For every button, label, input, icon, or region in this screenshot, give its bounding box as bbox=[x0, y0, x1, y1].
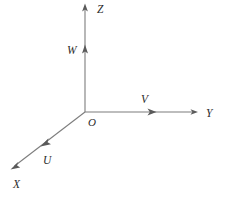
u-vector-label: U bbox=[43, 154, 52, 166]
coordinate-axes-diagram: Z W Y V X U O bbox=[0, 0, 225, 199]
origin-label: O bbox=[88, 116, 96, 128]
x-axis-label: X bbox=[12, 178, 21, 190]
w-vector-label: W bbox=[67, 44, 78, 56]
axes-svg-canvas: Z W Y V X U O bbox=[0, 0, 225, 199]
z-axis-label: Z bbox=[97, 3, 104, 15]
z-axis-group: Z bbox=[82, 3, 104, 112]
x-axis-group: X bbox=[11, 112, 86, 190]
v-vector-label: V bbox=[141, 93, 150, 105]
u-vector-group: U bbox=[41, 138, 53, 166]
y-axis-label: Y bbox=[206, 107, 214, 119]
